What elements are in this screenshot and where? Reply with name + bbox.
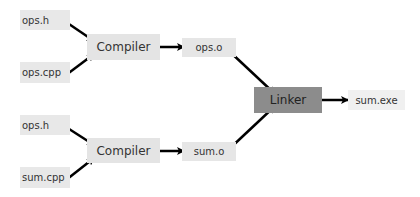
node-ops-cpp: ops.cpp [20, 62, 70, 83]
node-sum-cpp: sum.cpp [20, 167, 70, 188]
node-linker: Linker [254, 87, 322, 113]
node-ops-h-top: ops.h [20, 10, 70, 30]
node-sum-exe: sum.exe [348, 90, 405, 110]
node-sum-o: sum.o [182, 142, 236, 161]
node-ops-o: ops.o [182, 38, 236, 57]
node-compiler-top: Compiler [87, 34, 160, 60]
node-ops-h-bottom: ops.h [20, 115, 70, 135]
node-compiler-bottom: Compiler [87, 138, 160, 163]
